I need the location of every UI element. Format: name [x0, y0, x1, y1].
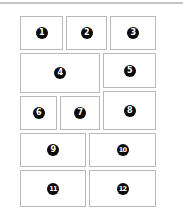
number-badge: 1 — [36, 27, 48, 39]
panel-10: 10 — [89, 133, 156, 167]
panel-3: 3 — [110, 16, 156, 50]
number-badge: 10 — [117, 144, 129, 156]
panel-5: 5 — [103, 53, 156, 88]
panel-11: 11 — [20, 170, 86, 207]
number-badge: 2 — [81, 27, 93, 39]
panel-9: 9 — [20, 133, 86, 167]
number-badge: 9 — [47, 144, 59, 156]
panel-4: 4 — [20, 53, 100, 93]
number-badge: 5 — [124, 65, 136, 77]
number-badge: 6 — [33, 107, 45, 119]
panel-12: 12 — [89, 170, 156, 207]
panel-1: 1 — [20, 16, 63, 50]
panel-6: 6 — [20, 96, 57, 130]
panel-2: 2 — [66, 16, 107, 50]
number-badge: 3 — [127, 27, 139, 39]
top-rule — [0, 2, 183, 4]
number-badge: 11 — [47, 183, 59, 195]
panel-7: 7 — [60, 96, 100, 130]
number-badge: 4 — [54, 67, 66, 79]
number-badge: 8 — [124, 105, 136, 117]
number-badge: 12 — [117, 183, 129, 195]
panel-8: 8 — [103, 91, 156, 130]
number-badge: 7 — [74, 107, 86, 119]
